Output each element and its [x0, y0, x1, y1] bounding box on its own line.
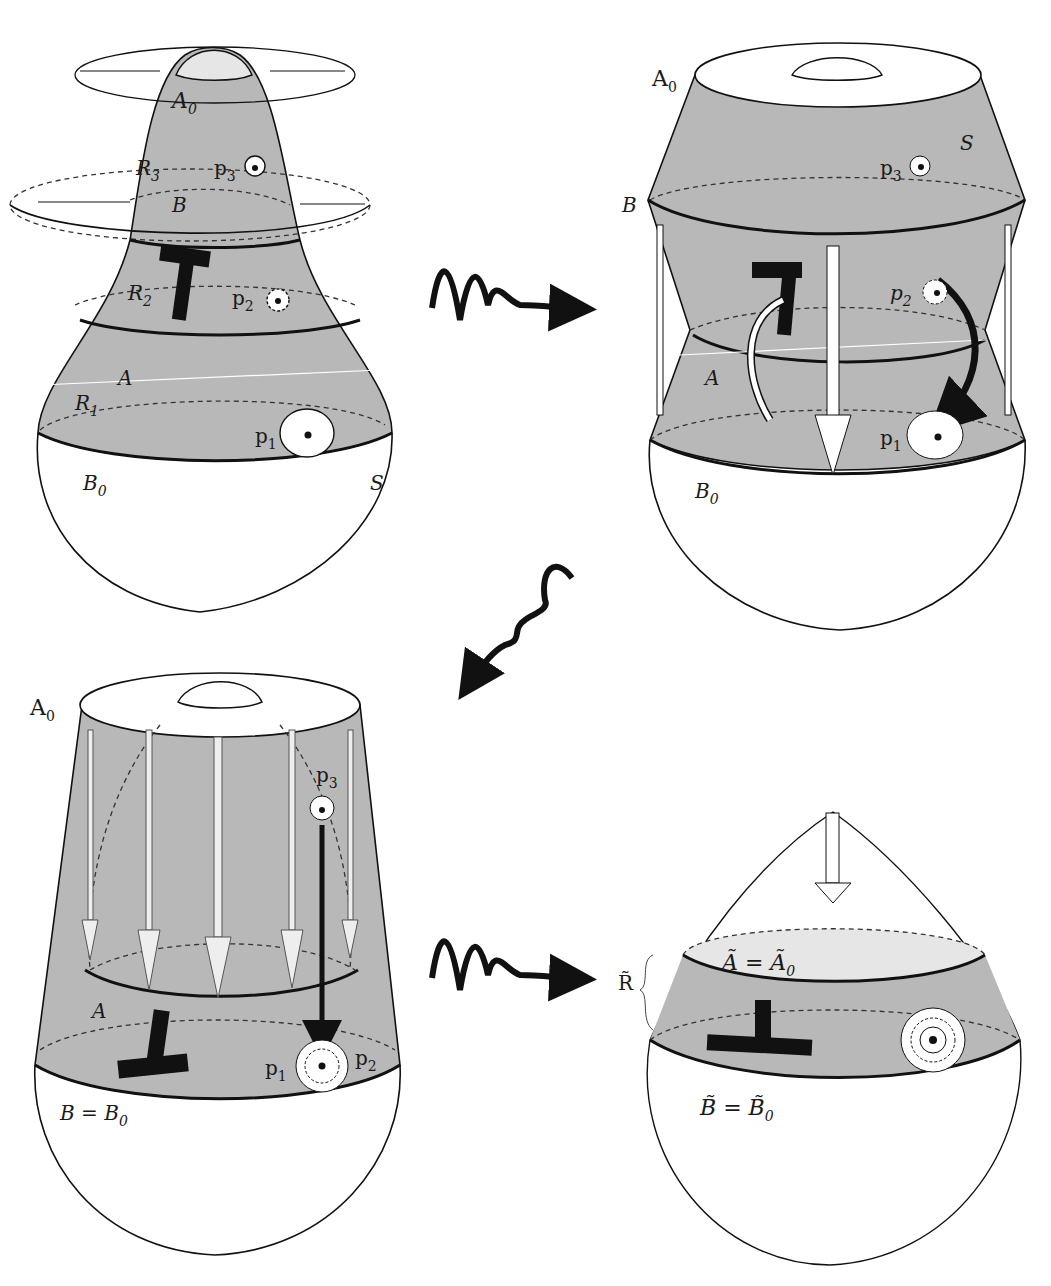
squiggly-arrow-right-icon — [432, 941, 585, 990]
label-B-eq-B0: B̃ = B̃ — [699, 1095, 765, 1120]
label-B-eq-B0: B = B — [59, 1101, 119, 1125]
label-S: S — [960, 131, 974, 155]
figure-canvas: A0 R3 p3 B R2 p2 A R1 p1 B0 S — [0, 0, 1051, 1286]
panel-top-right: A0 S p3 B p2 A p1 B0 — [621, 43, 1025, 630]
label-A0: A — [651, 66, 669, 91]
svg-text:Ã = Ã0: Ã = Ã0 — [720, 948, 795, 979]
label-S: S — [370, 471, 384, 495]
svg-text:B = B0: B = B0 — [59, 1101, 128, 1129]
svg-text:B̃ = B̃0: B̃ = B̃0 — [699, 1095, 774, 1124]
label-p2: p — [890, 281, 903, 305]
squiggly-arrow-down-left-icon — [465, 567, 572, 690]
label-A: A — [116, 366, 132, 390]
squiggly-arrow-right-icon — [432, 271, 585, 320]
label-B: B — [171, 193, 187, 217]
label-R-tilde: R̃ — [618, 971, 634, 995]
label-A: A — [703, 366, 719, 390]
label-B0: B — [82, 471, 98, 495]
label-A0: A — [170, 88, 188, 113]
svg-text:A0: A0 — [29, 695, 55, 724]
label-p2: p — [355, 1046, 368, 1070]
label-p3: p — [316, 763, 329, 787]
label-B: B — [621, 193, 637, 217]
label-p1: p — [265, 1056, 278, 1080]
surface-body — [38, 48, 392, 461]
label-R2: R — [127, 281, 143, 305]
label-A-eq-A0: Ã = Ã — [720, 948, 786, 975]
panel-top-left: A0 R3 p3 B R2 p2 A R1 p1 B0 S — [10, 47, 392, 612]
label-A: A — [90, 999, 106, 1023]
label-p2: p — [232, 286, 245, 310]
panel-bottom-left: A0 p3 A p1 p2 B = B0 — [29, 673, 400, 1255]
panel-bottom-right: R̃ Ã = Ã0 B̃ = B̃0 — [618, 812, 1021, 1265]
label-B0: B — [694, 479, 710, 503]
label-p3: p — [214, 156, 227, 180]
svg-text:A0: A0 — [651, 66, 677, 95]
label-R3: R — [135, 156, 151, 180]
label-p3: p — [880, 156, 893, 180]
label-p1: p — [255, 424, 268, 448]
label-p1: p — [880, 426, 893, 450]
label-R1: R — [74, 391, 90, 415]
label-A0: A — [29, 695, 47, 720]
